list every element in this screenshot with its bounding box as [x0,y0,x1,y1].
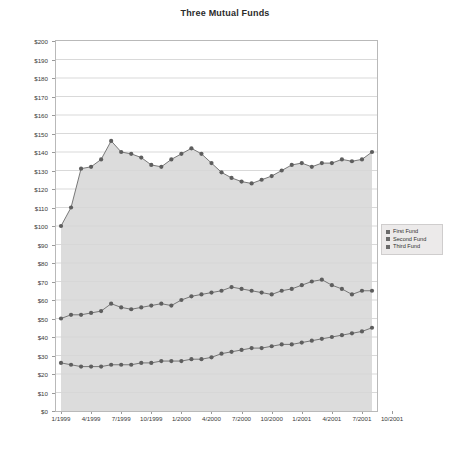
data-point-marker [300,161,304,165]
data-point-marker [300,283,304,287]
chart-container: Three Mutual Funds $0$10$20$30$40$50$60$… [0,0,450,454]
plot-svg [56,41,377,411]
data-point-marker [79,365,83,369]
data-point-marker [149,163,153,167]
data-point-marker [290,287,294,291]
plot-area [55,40,378,412]
data-point-marker [209,161,213,165]
y-axis-tick-label: $70 [14,278,48,285]
data-point-marker [370,150,374,154]
data-point-marker [250,346,254,350]
data-point-marker [159,165,163,169]
data-point-marker [109,302,113,306]
data-point-marker [270,174,274,178]
data-point-marker [129,363,133,367]
data-point-marker [59,316,63,320]
y-axis-tick-label: $10 [14,389,48,396]
legend-swatch-icon [386,237,390,241]
y-axis-tick-label: $170 [14,93,48,100]
data-point-marker [59,224,63,228]
y-axis-tick-label: $110 [14,204,48,211]
y-axis-tick-label: $80 [14,260,48,267]
data-point-marker [350,159,354,163]
data-point-marker [360,289,364,293]
y-axis-tick-label: $40 [14,334,48,341]
data-point-marker [99,365,103,369]
data-point-marker [169,359,173,363]
data-point-marker [270,344,274,348]
data-point-marker [370,289,374,293]
data-point-marker [209,355,213,359]
y-axis-tick-label: $30 [14,352,48,359]
data-point-marker [260,291,264,295]
data-point-marker [330,335,334,339]
data-point-marker [69,313,73,317]
x-axis-tick-label: 10/2001 [369,415,415,422]
data-point-marker [310,339,314,343]
data-point-marker [219,170,223,174]
data-point-marker [179,359,183,363]
legend-item-label: First Fund [393,229,418,235]
data-point-marker [169,303,173,307]
chart-legend: First FundSecond FundThird Fund [381,224,443,255]
x-axis-tick-mark [392,411,393,414]
y-axis-tick-label: $60 [14,297,48,304]
data-point-marker [79,313,83,317]
data-point-marker [239,287,243,291]
y-axis-tick-label: $50 [14,315,48,322]
y-axis-tick-label: $130 [14,167,48,174]
legend-swatch-icon [386,230,390,234]
data-point-marker [340,287,344,291]
data-point-marker [360,157,364,161]
data-point-marker [229,350,233,354]
data-point-marker [219,352,223,356]
data-point-marker [320,161,324,165]
data-point-marker [370,326,374,330]
data-point-marker [189,146,193,150]
chart-title: Three Mutual Funds [0,8,450,18]
data-point-marker [290,163,294,167]
data-point-marker [109,139,113,143]
data-point-marker [89,165,93,169]
data-point-marker [330,161,334,165]
data-point-marker [169,157,173,161]
legend-swatch-icon [386,245,390,249]
legend-item[interactable]: Second Fund [386,237,439,243]
data-point-marker [340,333,344,337]
data-point-marker [179,152,183,156]
data-point-marker [209,291,213,295]
y-axis-tick-label: $180 [14,75,48,82]
data-point-marker [340,157,344,161]
y-axis-tick-label: $150 [14,130,48,137]
data-point-marker [199,152,203,156]
data-point-marker [139,155,143,159]
y-axis-tick-label: $90 [14,241,48,248]
data-point-marker [139,305,143,309]
data-point-marker [239,348,243,352]
data-point-marker [119,305,123,309]
data-point-marker [119,363,123,367]
y-axis-tick-label: $160 [14,112,48,119]
data-point-marker [260,346,264,350]
data-point-marker [69,363,73,367]
y-axis-tick-label: $0 [14,408,48,415]
data-point-marker [129,152,133,156]
data-point-marker [199,292,203,296]
data-point-marker [69,205,73,209]
data-point-marker [109,363,113,367]
data-point-marker [250,289,254,293]
data-point-marker [139,361,143,365]
data-point-marker [159,359,163,363]
legend-item[interactable]: First Fund [386,229,439,235]
data-point-marker [99,309,103,313]
data-point-marker [290,342,294,346]
data-point-marker [280,168,284,172]
data-point-marker [199,357,203,361]
y-axis-tick-label: $100 [14,223,48,230]
data-point-marker [189,357,193,361]
data-point-marker [189,294,193,298]
data-point-marker [350,331,354,335]
legend-item[interactable]: Third Fund [386,244,439,250]
data-point-marker [250,181,254,185]
data-point-marker [229,285,233,289]
